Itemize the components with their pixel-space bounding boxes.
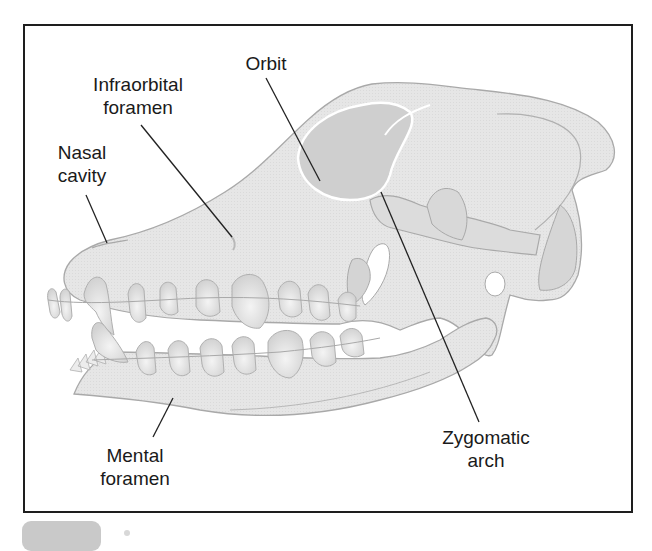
nasal-cavity-leader-line — [86, 195, 107, 243]
label-mental-foramen: Mental foramen — [100, 444, 170, 490]
label-infraorbital-foramen: Infraorbital foramen — [93, 73, 183, 119]
label-zygomatic-arch: Zygomatic arch — [442, 426, 530, 472]
cranium — [64, 83, 614, 356]
label-orbit: Orbit — [245, 52, 286, 75]
caption-start-mark — [124, 530, 130, 536]
figure-number-badge — [22, 521, 101, 551]
label-nasal-cavity: Nasal cavity — [58, 141, 107, 187]
